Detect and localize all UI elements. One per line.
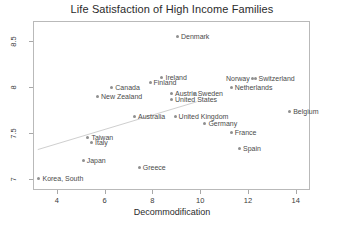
- x-tick-label: 8: [140, 196, 164, 205]
- x-tick-label: 6: [93, 196, 117, 205]
- data-point-label: Spain: [243, 145, 261, 152]
- data-point[interactable]: [110, 86, 113, 89]
- data-point[interactable]: [138, 166, 141, 169]
- data-point-label: Australia: [138, 113, 165, 120]
- x-tick-label: 14: [284, 196, 308, 205]
- x-tick-mark: [248, 190, 249, 194]
- data-point[interactable]: [90, 141, 93, 144]
- y-tick-label: 8.5: [9, 29, 18, 55]
- data-point-label: Finland: [154, 79, 177, 86]
- data-point-label: Netherlands: [235, 84, 273, 91]
- data-point-label: Belgium: [293, 108, 318, 115]
- data-point[interactable]: [203, 122, 206, 125]
- x-tick-mark: [152, 190, 153, 194]
- data-point-label: Denmark: [181, 33, 209, 40]
- data-point-label: Japan: [87, 157, 106, 164]
- y-tick-label: 7: [9, 166, 18, 192]
- data-point-label: United States: [175, 96, 217, 103]
- data-point-label: Switzerland: [259, 75, 295, 82]
- x-tick-mark: [296, 190, 297, 194]
- data-point-label: Italy: [95, 139, 108, 146]
- scatter-chart: Life Satisfaction of High Income Familie…: [0, 0, 344, 228]
- data-point[interactable]: [170, 92, 173, 95]
- data-point-label: Germany: [208, 120, 237, 127]
- data-point[interactable]: [230, 131, 233, 134]
- x-tick-mark: [200, 190, 201, 194]
- data-point[interactable]: [96, 95, 99, 98]
- x-axis-title: Decommodification: [0, 207, 344, 217]
- chart-title: Life Satisfaction of High Income Familie…: [0, 3, 344, 15]
- data-point-label: Korea, South: [42, 175, 83, 182]
- x-tick-mark: [105, 190, 106, 194]
- data-point-label: Canada: [115, 84, 140, 91]
- y-tick-label: 7.5: [9, 121, 18, 147]
- data-point-label: United Kingdom: [179, 113, 229, 120]
- data-point[interactable]: [288, 110, 291, 113]
- data-point-label: Norway: [226, 75, 250, 82]
- data-point[interactable]: [37, 177, 40, 180]
- data-point-label: France: [235, 129, 257, 136]
- x-tick-label: 10: [188, 196, 212, 205]
- data-point[interactable]: [254, 77, 257, 80]
- x-tick-label: 4: [45, 196, 69, 205]
- data-point[interactable]: [82, 159, 85, 162]
- data-point[interactable]: [238, 147, 241, 150]
- data-point-label: Greece: [143, 164, 166, 171]
- data-point[interactable]: [86, 136, 89, 139]
- data-point[interactable]: [170, 98, 173, 101]
- data-point[interactable]: [149, 81, 152, 84]
- data-point[interactable]: [230, 86, 233, 89]
- x-tick-label: 12: [236, 196, 260, 205]
- y-tick-label: 8: [9, 75, 18, 101]
- x-tick-mark: [57, 190, 58, 194]
- data-point-label: New Zealand: [101, 93, 142, 100]
- data-point[interactable]: [176, 35, 179, 38]
- data-point[interactable]: [174, 115, 177, 118]
- data-point[interactable]: [133, 115, 136, 118]
- plot-points-layer: DenmarkIrelandNorwaySwitzerlandFinlandCa…: [33, 21, 310, 190]
